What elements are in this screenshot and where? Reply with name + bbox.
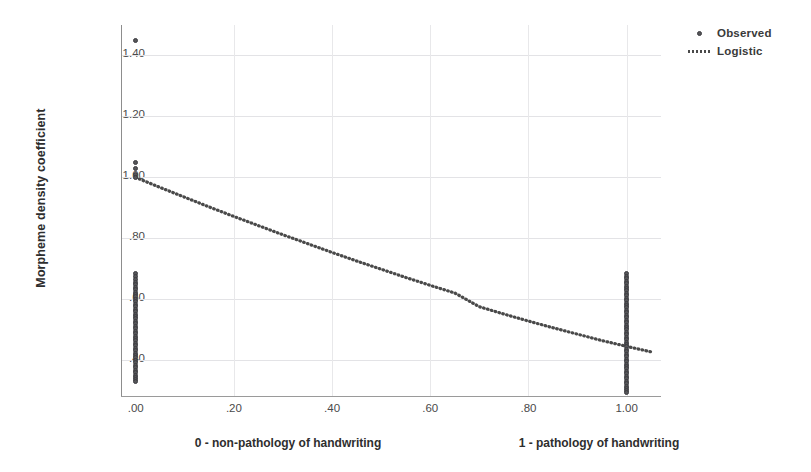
plot-area [121,25,661,397]
gridline-horizontal [122,299,661,300]
data-point [133,38,138,43]
data-point [624,390,629,395]
data-point [133,166,138,171]
gridline-vertical [234,25,235,397]
x-axis-tick-label: .40 [297,402,367,414]
legend-item-observed: Observed [686,24,772,42]
logistic-regression-scatter-chart: Morpheme density coefficient .40.60.801.… [0,0,811,472]
data-point [133,160,138,165]
gridline-horizontal [122,177,661,178]
legend-item-logistic: Logistic [686,42,772,60]
gridline-vertical [332,25,333,397]
logistic-dotted-line-icon [686,50,712,53]
chart-legend: Observed Logistic [686,24,772,60]
gridline-horizontal [122,55,661,56]
data-point [133,379,138,384]
gridline-horizontal [122,116,661,117]
gridline-vertical [430,25,431,397]
gridline-horizontal [122,360,661,361]
gridline-vertical [528,25,529,397]
x-axis-tick-label: .20 [199,402,269,414]
x-axis-tick-label: .80 [493,402,563,414]
data-point [133,175,138,180]
y-axis-line [121,25,122,397]
x-axis-group-caption: 0 - non-pathology of handwriting [195,436,382,450]
gridline-horizontal [122,238,661,239]
observed-dot-icon [686,31,712,36]
legend-label-observed: Observed [717,27,772,39]
legend-label-logistic: Logistic [717,45,763,57]
x-axis-tick-label: .60 [395,402,465,414]
x-axis-tick-label: 1.00 [592,402,662,414]
x-axis-group-caption: 1 - pathology of handwriting [519,436,680,450]
x-axis-line [121,396,661,397]
x-axis-tick-label: .00 [101,402,171,414]
y-axis-title: Morpheme density coefficient [30,48,52,348]
logistic-curve [121,25,661,397]
